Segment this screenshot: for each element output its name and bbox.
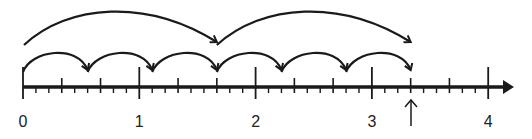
small-jump-arc [88,53,153,72]
axis-label: 0 [19,113,28,130]
tick-marks [23,67,488,99]
large-jump-arcs [24,12,411,45]
axis-label: 2 [251,113,260,130]
axis-label: 4 [484,113,493,130]
small-jump-arc [152,53,217,72]
large-jump-arc [217,12,411,45]
axis-arrowhead-icon [503,80,514,94]
small-jump-arc [217,53,282,72]
axis-labels: 01234 [19,113,493,130]
axis-label: 1 [135,113,144,130]
small-jump-arc [23,53,88,72]
large-jump-arc [24,12,217,45]
number-line-axis [23,67,514,99]
up-arrow-icon [405,100,417,126]
axis-label: 3 [367,113,376,130]
number-line-diagram: 01234 [0,0,532,139]
small-jump-arc [281,53,346,72]
small-jump-arcs [23,53,411,72]
small-jump-arc [346,53,411,72]
